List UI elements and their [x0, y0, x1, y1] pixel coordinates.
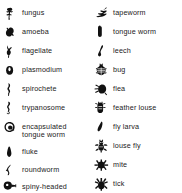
legend-item-tapeworm: tapeworm — [91, 6, 182, 21]
legend-item-spiny-headed-worm: spiny-headed worm — [0, 180, 91, 193]
leech-icon — [91, 44, 113, 59]
louse-fly-icon — [91, 139, 113, 154]
legend-item-feather-louse: feather louse — [91, 101, 182, 116]
legend-label: flea — [113, 82, 125, 93]
encapsulated-tongue-worm-icon — [0, 120, 22, 135]
mite-icon — [91, 158, 113, 173]
legend-label: leech — [113, 44, 131, 55]
legend-column-left: fungus amoeba flage — [0, 0, 91, 193]
legend-label: tick — [113, 177, 124, 188]
bug-icon — [91, 63, 113, 78]
legend-label: tapeworm — [113, 6, 146, 17]
legend-item-fluke: fluke — [0, 145, 91, 160]
legend-label: feather louse — [113, 101, 157, 112]
legend-label: bug — [113, 63, 125, 74]
amoeba-icon — [0, 25, 22, 40]
flagellate-icon — [0, 44, 22, 59]
legend-label: spiny-headed worm — [22, 180, 67, 193]
feather-louse-icon — [91, 101, 113, 116]
legend-item-bug: bug — [91, 63, 182, 78]
legend-label: mite — [113, 158, 127, 169]
legend-label: fungus — [22, 6, 44, 17]
roundworm-icon — [0, 163, 22, 178]
legend-label: plasmodium — [22, 63, 62, 74]
legend-item-roundworm: roundworm — [0, 163, 91, 178]
legend-label: amoeba — [22, 25, 49, 36]
trypanosome-icon — [0, 101, 22, 116]
fly-larva-icon — [91, 120, 113, 135]
fungus-icon — [0, 6, 22, 21]
legend-label: fluke — [22, 145, 38, 156]
legend-label: encapsulated tongue worm — [22, 120, 67, 140]
plasmodium-icon — [0, 63, 22, 78]
legend-label: spirochete — [22, 82, 57, 93]
legend-item-flea: flea — [91, 82, 182, 97]
legend-item-louse-fly: louse fly — [91, 139, 182, 154]
fluke-icon — [0, 145, 22, 160]
legend-item-spirochete: spirochete — [0, 82, 91, 97]
legend-item-trypanosome: trypanosome — [0, 101, 91, 116]
legend-item-mite: mite — [91, 158, 182, 173]
legend-item-amoeba: amoeba — [0, 25, 91, 40]
tongue-worm-icon — [91, 25, 113, 40]
parasite-legend: fungus amoeba flage — [0, 0, 182, 193]
legend-item-leech: leech — [91, 44, 182, 59]
tick-icon — [91, 177, 113, 192]
legend-label: fly larva — [113, 120, 139, 131]
legend-label: flagellate — [22, 44, 52, 55]
legend-label: louse fly — [113, 139, 141, 150]
legend-item-encapsulated-tongue-worm: encapsulated tongue worm — [0, 120, 91, 140]
legend-label: trypanosome — [22, 101, 65, 112]
legend-item-tick: tick — [91, 177, 182, 192]
legend-item-flagellate: flagellate — [0, 44, 91, 59]
tapeworm-icon — [91, 6, 113, 21]
legend-column-right: tapeworm tongue worm — [91, 0, 182, 193]
flea-icon — [91, 82, 113, 97]
legend-item-plasmodium: plasmodium — [0, 63, 91, 78]
spiny-headed-worm-icon — [0, 180, 22, 193]
legend-label: tongue worm — [113, 25, 156, 36]
legend-item-fly-larva: fly larva — [91, 120, 182, 135]
legend-item-fungus: fungus — [0, 6, 91, 21]
spirochete-icon — [0, 82, 22, 97]
legend-item-tongue-worm: tongue worm — [91, 25, 182, 40]
legend-label: roundworm — [22, 163, 59, 174]
